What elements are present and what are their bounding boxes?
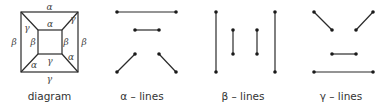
beta-lines-panel: β – lines (214, 10, 277, 102)
label-inner-right: β (62, 37, 68, 47)
label-diag-top-left: γ (24, 23, 30, 33)
caption-diagram: diagram (28, 90, 72, 102)
label-outer-top: α (46, 2, 52, 12)
figure: α γ β β α γ β β γ γ α α diagram α – line… (0, 0, 387, 111)
caption-alpha-lines: α – lines (120, 90, 163, 102)
label-diag-top-right: γ (70, 14, 76, 24)
label-outer-left: β (10, 37, 16, 47)
label-diag-bottom-right: α (68, 52, 74, 62)
label-diag-bottom-left: α (31, 60, 37, 70)
label-outer-bottom: γ (47, 74, 53, 84)
diagram-panel: α γ β β α γ β β γ γ α α diagram (10, 2, 86, 102)
label-inner-bottom: γ (47, 56, 53, 66)
inner-square (38, 30, 62, 54)
label-inner-left: β (29, 37, 35, 47)
alpha-lines-panel: α – lines (115, 10, 178, 102)
label-inner-top: α (47, 19, 53, 29)
caption-gamma-lines: γ – lines (320, 90, 363, 102)
label-outer-right: β (80, 37, 86, 47)
caption-beta-lines: β – lines (221, 90, 264, 102)
gamma-lines-panel: γ – lines (312, 10, 375, 102)
